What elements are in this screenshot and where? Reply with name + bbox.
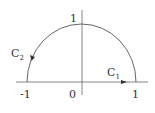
x-neg-label: -1 (20, 88, 31, 101)
contour-diagram: 1 -1 0 1 C2 C1 (0, 0, 155, 113)
x-pos-label: 1 (132, 88, 139, 101)
c1-label: C1 (107, 66, 120, 81)
y-top-label: 1 (70, 12, 77, 25)
c2-label: C2 (11, 47, 24, 62)
origin-label: 0 (69, 88, 76, 101)
c1-arrow-icon (121, 80, 127, 84)
